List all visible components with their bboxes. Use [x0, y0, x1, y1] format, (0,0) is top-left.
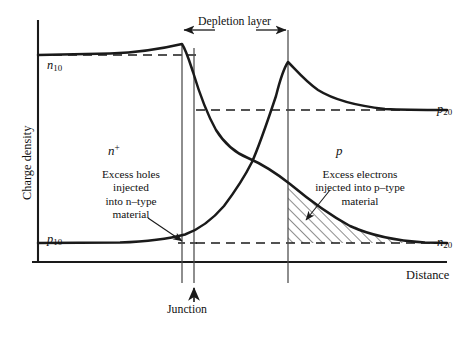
n20-label: n20	[437, 235, 453, 251]
excess-holes-annotation: Excess holes injected into n–type materi…	[83, 168, 179, 221]
excess-electrons-annotation: Excess electrons injected into p–type ma…	[296, 168, 424, 208]
n-plus-superscript: +	[115, 143, 120, 153]
n10-label: n10	[47, 58, 63, 74]
excess-holes-line-3: into n–type	[83, 195, 179, 208]
excess-electrons-line-2: injected into p–type	[296, 181, 424, 194]
p20-label: p20	[437, 102, 453, 118]
n10-subscript: 10	[53, 63, 62, 73]
excess-electrons-line-3: material	[296, 195, 424, 208]
p10-label: p10	[47, 232, 63, 248]
excess-holes-line-4: material	[83, 208, 179, 221]
junction-label: Junction	[167, 303, 207, 317]
excess-holes-line-2: injected	[83, 181, 179, 194]
n-plus-region-label: n+	[108, 143, 120, 159]
p-type-italic: p	[374, 181, 380, 193]
charge-density-pn-junction-figure: Charge density Distance n10 p10 p20 n20 …	[0, 0, 468, 355]
depletion-layer-label: Depletion layer	[198, 15, 271, 29]
x-axis-title: Distance	[406, 268, 449, 283]
excess-electrons-line-1: Excess electrons	[296, 168, 424, 181]
y-axis-title: Charge density	[20, 126, 35, 200]
p10-subscript: 10	[53, 237, 62, 247]
excess-holes-line-1: Excess holes	[83, 168, 179, 181]
n20-subscript: 20	[443, 240, 452, 250]
p-region-label: p	[336, 143, 343, 158]
n-type-italic: n	[126, 195, 132, 207]
p20-subscript: 20	[443, 107, 452, 117]
